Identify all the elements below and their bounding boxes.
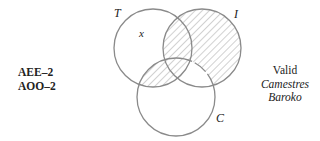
circle-label-t: T <box>114 6 122 20</box>
syllogism-name-1: Camestres <box>255 78 315 92</box>
circle-label-i: I <box>233 7 239 21</box>
existence-mark-x: x <box>138 27 144 39</box>
verdict-label: Valid <box>255 64 315 78</box>
verdict-panel: Valid Camestres Baroko <box>255 64 315 105</box>
syllogism-name-2: Baroko <box>255 91 315 105</box>
circle-label-c: C <box>216 111 225 125</box>
